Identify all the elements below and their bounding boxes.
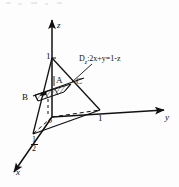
point-label-c: C bbox=[76, 77, 82, 86]
y-axis bbox=[52, 110, 164, 117]
z-tick-label-1: 1 bbox=[46, 52, 51, 61]
edge-xhalf-to-y1 bbox=[33, 110, 100, 134]
figure-canvas: z y x 1 1 1 2 o A B C Dz:2x+y=1-z bbox=[0, 0, 179, 187]
region-equation-body: :2x+y=1-z bbox=[87, 54, 120, 63]
x-axis-label: x bbox=[16, 168, 20, 177]
x-tick-label-one-half: 1 2 bbox=[29, 136, 39, 154]
z-axis-label: z bbox=[57, 21, 61, 30]
fraction-numerator: 1 bbox=[29, 136, 39, 144]
y-tick-label-1: 1 bbox=[98, 114, 103, 123]
point-label-b: B bbox=[22, 93, 28, 102]
region-dz-shaded bbox=[35, 84, 71, 101]
fraction-denominator: 2 bbox=[29, 145, 39, 153]
region-equation-label: Dz:2x+y=1-z bbox=[79, 55, 121, 65]
y-axis-label: y bbox=[165, 113, 169, 122]
point-label-a: A bbox=[56, 76, 63, 85]
origin-label: o bbox=[48, 117, 52, 125]
